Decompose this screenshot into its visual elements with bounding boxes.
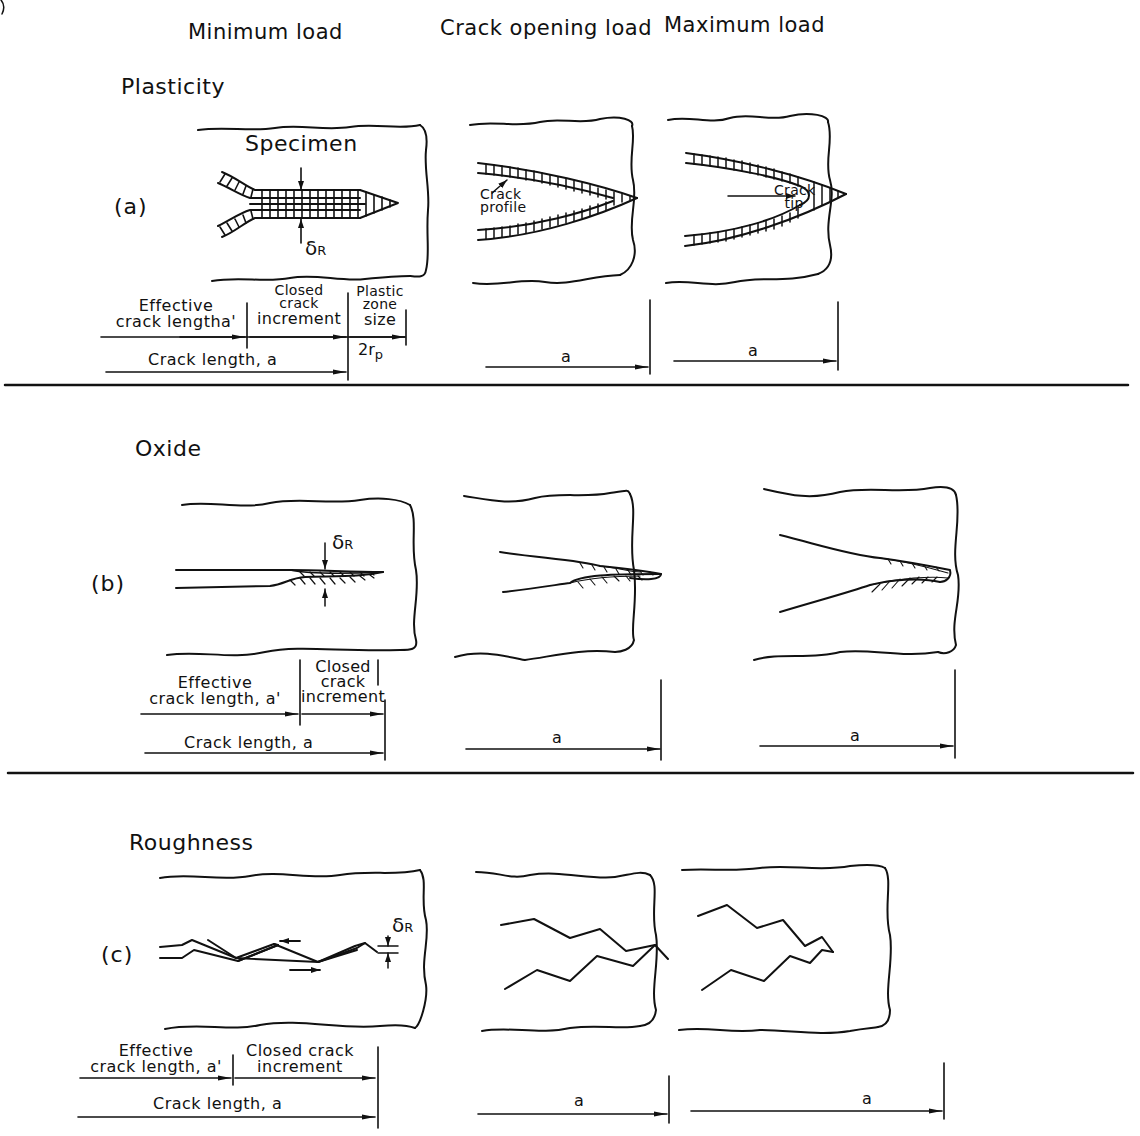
effective-line-2: crack length, a': [78, 1059, 234, 1075]
plastic-zone-symbol: 2rp: [358, 342, 383, 361]
delta-r-label-a: δR: [305, 238, 326, 258]
a-label-open-a: a: [561, 349, 571, 365]
section-title-plasticity: Plasticity: [121, 76, 225, 98]
roughness-max-dimension: [691, 1063, 944, 1119]
effective-line-2: crack lengtha': [101, 314, 251, 330]
closed-line-2: increment: [236, 1059, 364, 1075]
crack-length-label-a: Crack length, a: [148, 352, 277, 368]
two-r-text: 2r: [358, 340, 375, 359]
delta-subscript: R: [317, 243, 326, 258]
crack-tip-label: Crack tip: [774, 184, 818, 211]
delta-subscript: R: [404, 920, 413, 935]
roughness-max-specimen: [679, 865, 891, 1033]
delta-subscript: R: [344, 537, 353, 552]
effective-symbol: a': [221, 312, 236, 331]
closed-crack-increment-label-c: Closed crack increment: [236, 1043, 364, 1075]
crack-closure-diagram: [0, 0, 1140, 1136]
crack-tip-text: Crack tip: [774, 184, 814, 211]
effective-crack-length-label-c: Effective crack length, a': [78, 1043, 234, 1075]
oxide-open-specimen: [455, 491, 661, 660]
case-label-c: (c): [101, 944, 133, 966]
closed-crack-increment-label-b: Closed crack increment: [300, 659, 386, 705]
delta-r-label-c: δR: [392, 915, 413, 935]
crack-length-label-c: Crack length, a: [153, 1096, 282, 1112]
section-title-oxide: Oxide: [135, 438, 201, 460]
crack-length-label-b: Crack length, a: [184, 735, 313, 751]
corner-mark: [1, 0, 4, 14]
oxide-open-dimension: [466, 680, 661, 760]
delta-symbol: δ: [305, 236, 317, 260]
plastic-zone-size-label: Plastic zone size: [350, 285, 410, 327]
closed-crack-increment-label-a: Closed crack increment: [250, 284, 348, 326]
delta-r-label-b: δR: [332, 532, 353, 552]
a-label-max-b: a: [850, 728, 860, 744]
crack-profile-label: Crack profile: [480, 188, 540, 215]
delta-symbol: δ: [332, 530, 344, 554]
roughness-min-specimen: [160, 870, 427, 1029]
oxide-max-specimen: [754, 487, 959, 660]
delta-symbol: δ: [392, 913, 404, 937]
specimen-label: Specimen: [245, 133, 358, 155]
column-header-crack-opening-load: Crack opening load: [440, 18, 652, 39]
closed-line-3: increment: [250, 311, 348, 326]
column-header-maximum-load: Maximum load: [664, 15, 825, 36]
effective-line-2: crack length, a': [130, 691, 300, 707]
effective-crack-length-label-a: Effective crack lengtha': [101, 298, 251, 330]
a-label-max-a: a: [748, 343, 758, 359]
plasticity-max-specimen: [666, 114, 846, 284]
case-label-b: (b): [91, 573, 125, 595]
oxide-min-specimen: [167, 499, 417, 656]
column-header-minimum-load: Minimum load: [188, 22, 343, 43]
effective-text: crack length: [116, 312, 221, 331]
a-label-open-b: a: [552, 730, 562, 746]
p-subscript: p: [375, 347, 383, 362]
roughness-open-specimen: [476, 872, 668, 1031]
effective-crack-length-label-b: Effective crack length, a': [130, 675, 300, 707]
section-title-roughness: Roughness: [129, 832, 254, 854]
crack-profile-text: Crack profile: [480, 188, 530, 215]
a-label-open-c: a: [574, 1093, 584, 1109]
closed-line-3: increment: [300, 689, 386, 704]
case-label-a: (a): [114, 196, 148, 218]
plastic-line-3: size: [350, 312, 410, 327]
a-label-max-c: a: [862, 1091, 872, 1107]
